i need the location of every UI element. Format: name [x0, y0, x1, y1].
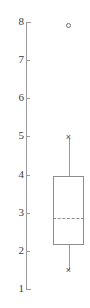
y-tick-label: 8	[4, 16, 24, 27]
box-iqr	[53, 176, 84, 245]
whisker-upper	[69, 138, 70, 176]
y-tick-label: 5	[4, 130, 24, 141]
whisker-cap-upper-icon: ×	[63, 133, 75, 142]
y-tick-mark	[26, 22, 30, 23]
y-tick-mark	[26, 175, 30, 176]
y-tick-mark	[26, 213, 30, 214]
y-tick-label: 6	[4, 92, 24, 103]
y-tick-label: 7	[4, 54, 24, 65]
y-tick-mark	[26, 98, 30, 99]
y-tick-label: 2	[4, 245, 24, 256]
y-tick-mark	[26, 60, 30, 61]
y-tick-label: 3	[4, 207, 24, 218]
y-tick-mark	[26, 136, 30, 137]
whisker-cap-lower-icon: ×	[63, 266, 75, 275]
outlier-point-icon	[66, 23, 71, 28]
median-line	[53, 218, 84, 219]
y-tick-label: 4	[4, 169, 24, 180]
y-tick-mark	[26, 289, 30, 290]
y-axis-spine	[26, 22, 27, 289]
y-tick-label: 1	[4, 283, 24, 294]
y-tick-mark	[26, 251, 30, 252]
boxplot-chart: 87654321 × ×	[0, 0, 90, 308]
